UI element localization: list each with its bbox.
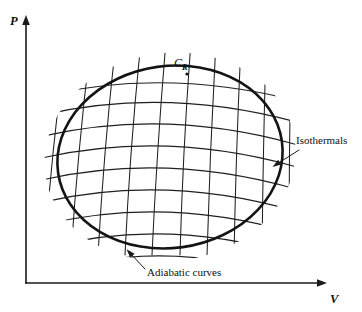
isothermals-leader-line [277,150,299,164]
y-axis-arrowhead [22,15,30,25]
adiabatic-curve [152,41,166,255]
pv-diagram-figure: P V C R Isothermals Adiabatic curves [0,0,362,312]
isothermal-curve [31,124,298,145]
isothermal-curve [29,146,297,167]
x-axis-arrowhead [317,279,327,287]
x-axis-label: V [330,292,340,306]
cycle-label: C R [174,56,188,72]
adiabatic-curve [18,44,41,258]
cycle-marker-dot [185,72,188,75]
isothermal-curve [31,190,295,211]
isothermals-label: Isothermals [296,134,347,146]
y-axis-label: P [10,14,18,28]
adiabatic-curve [180,41,191,255]
isothermal-curve [42,234,293,255]
adiabatic-curve [44,42,66,256]
cycle-label-subscript: R [181,62,188,72]
isothermal-curve [29,168,296,189]
adiabatic-curves-label: Adiabatic curves [147,266,221,278]
adiabatic-curve [262,47,266,258]
